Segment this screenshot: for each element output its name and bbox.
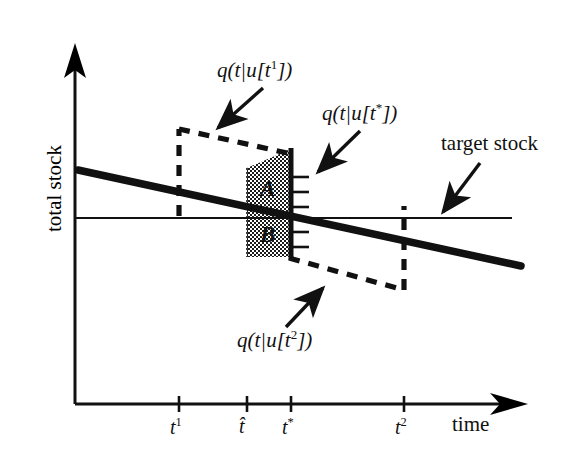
q-t1-leader-arrow: [218, 88, 263, 128]
target-stock-leader-arrow: [443, 163, 480, 212]
x-tick-label-t1: t1: [170, 415, 182, 439]
q-t2-leader-arrow: [286, 288, 323, 327]
region-label-B: B: [260, 222, 275, 248]
annotation-target-stock: target stock: [441, 131, 538, 156]
region-label-A: A: [260, 176, 275, 202]
y-axis-label: total stock: [42, 145, 67, 232]
x-tick-label-that: t̂: [239, 415, 245, 438]
q-tstar-leader-arrow: [318, 131, 360, 172]
figure-canvas: total stock time q(t|u[t1]) q(t|u[t*]) t…: [0, 0, 576, 465]
x-axis-label: time: [452, 412, 489, 437]
annotation-q-t2: q(t|u[t2]): [237, 327, 312, 353]
x-tick-label-tstar: t*: [282, 415, 294, 439]
annotation-q-tstar: q(t|u[t*]): [322, 100, 397, 126]
x-tick-label-t2: t2: [395, 415, 407, 439]
tstar-tick-marks: [291, 177, 309, 247]
annotation-q-t1: q(t|u[t1]): [217, 57, 292, 83]
